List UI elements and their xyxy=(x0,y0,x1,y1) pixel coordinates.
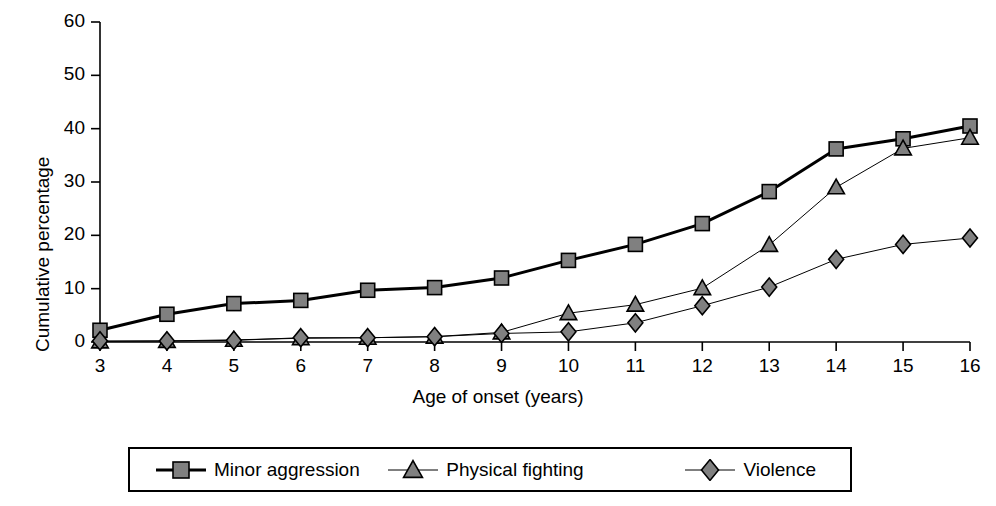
data-point-marker xyxy=(294,293,308,307)
legend-label: Minor aggression xyxy=(214,459,360,481)
legend: Minor aggressionPhysical fightingViolenc… xyxy=(128,447,852,492)
data-point-marker xyxy=(695,217,709,231)
data-point-marker xyxy=(428,281,442,295)
data-point-marker xyxy=(896,235,911,253)
chart-container: Cumulative percentage Age of onset (year… xyxy=(0,0,996,506)
data-point-marker xyxy=(627,296,644,311)
legend-entry: Violence xyxy=(595,459,826,481)
data-point-marker xyxy=(762,185,776,199)
data-point-marker xyxy=(361,283,375,297)
data-point-marker xyxy=(694,280,711,295)
data-point-marker xyxy=(227,297,241,311)
data-point-marker xyxy=(828,179,845,194)
data-point-marker xyxy=(963,229,978,247)
data-point-marker xyxy=(494,324,509,342)
data-point-marker xyxy=(761,237,778,252)
series-triangle xyxy=(92,129,979,347)
triangle-marker-icon xyxy=(386,459,440,481)
data-point-marker xyxy=(762,278,777,296)
series-layer xyxy=(92,119,979,350)
legend-entry: Physical fighting xyxy=(375,459,596,481)
data-point-marker xyxy=(561,323,576,341)
diamond-marker-icon xyxy=(683,459,737,481)
data-point-marker xyxy=(495,271,509,285)
series-diamond xyxy=(93,229,978,350)
legend-label: Violence xyxy=(743,459,816,481)
legend-entry: Minor aggression xyxy=(154,459,375,481)
data-point-marker xyxy=(695,297,710,315)
data-point-marker xyxy=(829,142,843,156)
plot-area xyxy=(0,0,996,506)
data-point-marker xyxy=(829,250,844,268)
data-point-marker xyxy=(628,237,642,251)
legend-items: Minor aggressionPhysical fightingViolenc… xyxy=(130,449,850,490)
series-square xyxy=(93,119,977,337)
legend-label: Physical fighting xyxy=(446,459,583,481)
square-marker-icon xyxy=(154,459,208,481)
data-point-marker xyxy=(160,307,174,321)
data-point-marker xyxy=(561,253,575,267)
data-point-marker xyxy=(628,314,643,332)
